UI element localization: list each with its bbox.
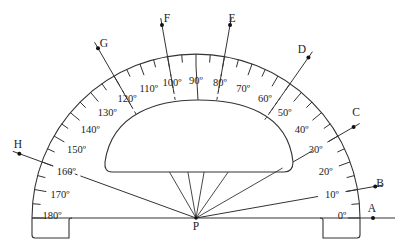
minor-tick <box>80 102 86 108</box>
ray-label: G <box>100 37 108 49</box>
ray-d <box>269 52 312 113</box>
minor-tick <box>38 176 46 178</box>
ray-c-mid <box>293 151 312 162</box>
ray-label: D <box>298 43 306 55</box>
minor-tick <box>262 69 265 76</box>
point-a <box>371 216 375 220</box>
scale-label: 140º <box>81 124 101 135</box>
minor-tick <box>47 149 54 152</box>
scale-label: 20º <box>319 166 334 177</box>
ray-label: E <box>228 12 235 24</box>
ray-g <box>95 42 133 107</box>
scale-label: 180º <box>42 210 62 221</box>
major-tick <box>54 136 64 142</box>
minor-tick <box>182 55 183 63</box>
scale-label: 110º <box>139 83 158 94</box>
protractor-diagram: 0º10º20º30º40º50º60º70º80º90º100º110º120… <box>0 0 404 249</box>
ray-h-inner <box>83 177 196 218</box>
scale-label: 160º <box>57 166 77 177</box>
minor-tick <box>33 204 41 205</box>
scale-label: 150º <box>67 144 87 155</box>
point-h <box>17 152 21 156</box>
scale-label: 60º <box>258 93 273 104</box>
point-d <box>306 55 310 59</box>
scale-label: 0º <box>338 210 347 221</box>
ray-label: F <box>164 12 170 24</box>
scale-label: 50º <box>278 107 293 118</box>
minor-tick <box>62 124 69 129</box>
major-tick <box>34 190 46 192</box>
ray-inner-segment <box>196 172 204 218</box>
minor-tick <box>337 149 344 152</box>
center-point-label: P <box>193 220 199 232</box>
ray-label: A <box>368 202 377 214</box>
major-tick <box>91 92 99 101</box>
scale-label: 130º <box>98 107 118 118</box>
minor-tick <box>154 60 156 68</box>
minor-tick <box>306 102 312 108</box>
major-tick <box>140 64 144 75</box>
minor-tick <box>236 60 238 68</box>
major-tick <box>294 92 302 101</box>
scale-label: 90º <box>189 75 204 86</box>
scale-label: 70º <box>236 83 251 94</box>
major-tick <box>312 113 321 121</box>
ray-inner-segment <box>196 172 228 218</box>
minor-tick <box>324 124 331 129</box>
scale-label: 40º <box>295 124 310 135</box>
right-foot <box>320 218 360 238</box>
minor-tick <box>210 55 211 63</box>
minor-tick <box>347 176 355 178</box>
major-tick <box>272 76 278 86</box>
ray-label: C <box>352 106 360 118</box>
scale-label: 10º <box>325 189 340 200</box>
major-tick <box>248 64 252 75</box>
major-tick <box>70 113 79 121</box>
ray-label: B <box>376 177 384 189</box>
point-c <box>352 125 356 129</box>
inner-window <box>105 100 293 172</box>
scale-label: 30º <box>309 144 324 155</box>
scale-label: 170º <box>51 189 71 200</box>
minor-tick <box>351 204 359 205</box>
left-foot <box>32 218 72 238</box>
major-tick <box>339 162 350 166</box>
ray-label: H <box>14 138 22 150</box>
minor-tick <box>127 69 130 76</box>
minor-tick <box>102 84 107 91</box>
